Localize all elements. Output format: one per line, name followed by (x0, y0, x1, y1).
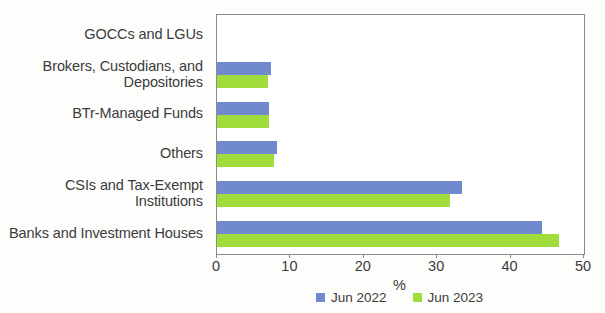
x-tick-label: 30 (428, 258, 444, 274)
bar-group (217, 15, 584, 55)
legend-label: Jun 2023 (428, 290, 484, 305)
bar (217, 221, 542, 234)
bar-group (217, 134, 584, 174)
plot-area (216, 14, 585, 255)
bar (217, 194, 450, 207)
category-label: Banks and Investment Houses (0, 213, 210, 253)
bar-group (217, 95, 584, 135)
bar-chart: GOCCs and LGUsBrokers, Custodians, and D… (0, 0, 605, 313)
legend-swatch-icon (316, 293, 325, 302)
x-axis-ticks: 01020304050 (216, 254, 583, 262)
bar (217, 102, 269, 115)
legend-label: Jun 2022 (331, 290, 387, 305)
category-label: CSIs and Tax-Exempt Institutions (0, 173, 210, 213)
legend-item[interactable]: Jun 2022 (316, 290, 387, 305)
bar (217, 141, 277, 154)
x-tick-label: 50 (575, 258, 591, 274)
legend-item[interactable]: Jun 2023 (413, 290, 484, 305)
bar (217, 62, 271, 75)
bar (217, 75, 268, 88)
bar (217, 154, 274, 167)
bar (217, 181, 462, 194)
bar (217, 234, 559, 247)
x-tick-label: 0 (212, 258, 220, 274)
category-label: Brokers, Custodians, and Depositories (0, 54, 210, 94)
x-tick-label: 20 (355, 258, 371, 274)
category-label: GOCCs and LGUs (0, 14, 210, 54)
bar (217, 115, 269, 128)
bar-group (217, 55, 584, 95)
bar-group (217, 174, 584, 214)
chart-legend: Jun 2022Jun 2023 (216, 290, 583, 305)
x-tick-label: 10 (281, 258, 297, 274)
category-axis: GOCCs and LGUsBrokers, Custodians, and D… (0, 14, 210, 253)
category-label: BTr-Managed Funds (0, 94, 210, 134)
legend-swatch-icon (413, 293, 422, 302)
x-tick-label: 40 (502, 258, 518, 274)
bar-group (217, 214, 584, 254)
category-label: Others (0, 133, 210, 173)
bars-layer (217, 15, 584, 254)
